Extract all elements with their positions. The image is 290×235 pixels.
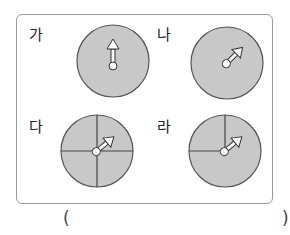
spinner-da <box>57 111 137 191</box>
spinner-ra <box>185 111 265 191</box>
label-da: 다 <box>29 115 43 136</box>
answer-open-paren: ( <box>63 208 70 228</box>
spinner-na <box>187 21 267 101</box>
label-ga: 가 <box>29 23 43 44</box>
label-na: 나 <box>157 23 171 44</box>
answer-close-paren: ) <box>282 208 289 228</box>
spinner-ga <box>73 21 153 101</box>
label-ra: 라 <box>157 115 171 136</box>
spinner-panel-box: 가 나 다 라 <box>16 14 273 204</box>
answer-field[interactable] <box>75 208 275 228</box>
